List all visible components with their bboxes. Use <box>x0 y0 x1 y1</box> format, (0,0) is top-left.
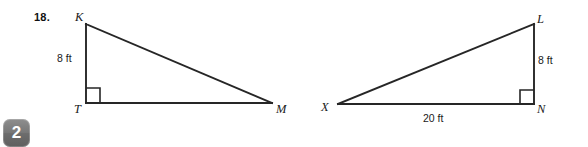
page-badge-icon[interactable]: 2 <box>3 119 30 147</box>
geometry-figure-svg <box>0 0 588 147</box>
segment-XL <box>338 24 534 104</box>
problem-number: 18. <box>34 11 50 23</box>
vertex-label-m: M <box>276 103 286 116</box>
worksheet-figure-panel: 18. K T M L X N 8 ft 8 ft 20 ft 2 <box>0 0 588 147</box>
vertex-label-x: X <box>321 101 329 114</box>
triangle-KTM <box>86 24 272 103</box>
right-angle-mark-N <box>520 90 534 103</box>
vertex-label-l: L <box>537 13 544 26</box>
measure-label-xn: 20 ft <box>423 113 443 124</box>
page-badge-label: 2 <box>3 124 30 141</box>
right-angle-mark-T <box>86 88 100 102</box>
vertex-label-t: T <box>74 103 81 116</box>
vertex-label-k: K <box>75 11 83 24</box>
measure-label-ln: 8 ft <box>538 55 553 66</box>
vertex-label-n: N <box>537 103 545 116</box>
segment-KM <box>86 24 272 103</box>
triangle-LXN <box>338 24 534 104</box>
measure-label-kt: 8 ft <box>57 53 72 64</box>
